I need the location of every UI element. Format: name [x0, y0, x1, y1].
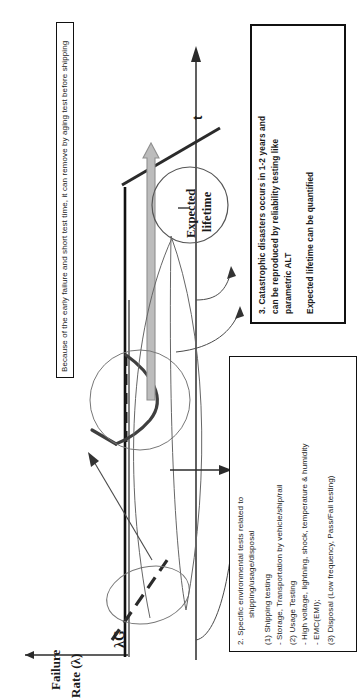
lens-region-outline — [170, 236, 201, 610]
early-failure-ellipse — [100, 558, 195, 633]
catastrophic-line-2: can be reproduced by reliability testing… — [270, 139, 280, 314]
catastrophic-line-1: 3. Catastrophic disasters occurs in 1-2 … — [257, 116, 267, 314]
expected-lifetime-line1: Expected — [184, 189, 199, 238]
axis-label-time: t — [190, 116, 205, 120]
baseline-label-lambda-g: λG — [112, 630, 128, 648]
environmental-item-6: (3) Disposal (Low frequency, Pass/Fail t… — [326, 475, 336, 645]
environmental-box-title: 2. Specific environmental tests related … — [236, 497, 246, 645]
trend-line — [122, 128, 220, 185]
expected-lifetime-line2: lifetime — [200, 192, 215, 232]
environmental-item-5: - EMC(EMI); — [312, 599, 322, 645]
arrow-to-note-box — [88, 452, 152, 560]
connector-arrowhead-2 — [235, 306, 244, 319]
catastrophic-line-3: parametric ALT — [283, 253, 293, 314]
grey-block-arrow — [143, 143, 159, 400]
axis-label-failure: Failure — [48, 650, 64, 690]
environmental-item-3: (2) Usage Testing — [288, 581, 298, 645]
environmental-box-title2: shipping/usage/disposal — [247, 530, 257, 618]
connector-arrowhead-1 — [227, 266, 236, 279]
catastrophic-line-4: Expected lifetime can be quantified — [305, 172, 315, 314]
environmental-item-4: - High voltage, lightning, shock, temper… — [300, 443, 310, 645]
axis-label-rate: Rate (λ) — [68, 654, 84, 698]
environmental-item-1: (1) Shipping testing — [263, 574, 273, 645]
note-box-text: Because of the early failure and short t… — [60, 24, 70, 372]
figure-canvas: Failure Rate (λ) t λG Expected lifetime … — [0, 0, 359, 700]
environmental-item-2: - Storage, Transportation by vehicle/shi… — [275, 484, 285, 645]
